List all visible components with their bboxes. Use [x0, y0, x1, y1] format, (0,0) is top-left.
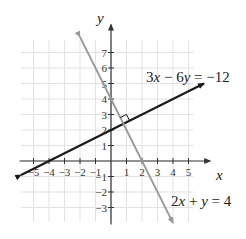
equation-label-line2: 2x + y = 4 [171, 193, 231, 210]
x-tick-label: −3 [59, 166, 71, 178]
x-tick-label: 3 [155, 166, 161, 178]
y-tick-label: 6 [102, 62, 108, 74]
eq1-mid: − 6 [160, 69, 183, 85]
y-tick-label: 7 [102, 47, 108, 59]
equation-label-line1: 3x − 6y = −12 [146, 69, 230, 86]
x-tick-label: 2 [139, 166, 145, 178]
eq2-rhs: = 4 [208, 193, 231, 209]
y-tick-label: 1 [102, 140, 108, 152]
x-tick-label: 1 [124, 166, 130, 178]
y-tick-label: −2 [95, 186, 107, 198]
x-tick-label: 5 [186, 166, 192, 178]
x-tick-label: −4 [43, 166, 55, 178]
y-tick-label: 4 [102, 93, 108, 105]
y-tick-label: 3 [102, 109, 108, 121]
y-tick-label: −3 [95, 202, 107, 214]
x-tick-label: −2 [74, 166, 86, 178]
eq1-coef1: 3 [146, 69, 154, 85]
y-tick-label: −1 [95, 171, 107, 183]
x-axis-label: x [215, 167, 223, 183]
x-tick-label: 4 [170, 166, 176, 178]
eq2-coef1: 2 [171, 193, 179, 209]
eq1-rhs: = −12 [190, 69, 229, 85]
y-axis-label: y [95, 10, 104, 26]
eq2-mid: + [185, 193, 201, 209]
eq2-var-y: y [201, 193, 208, 209]
